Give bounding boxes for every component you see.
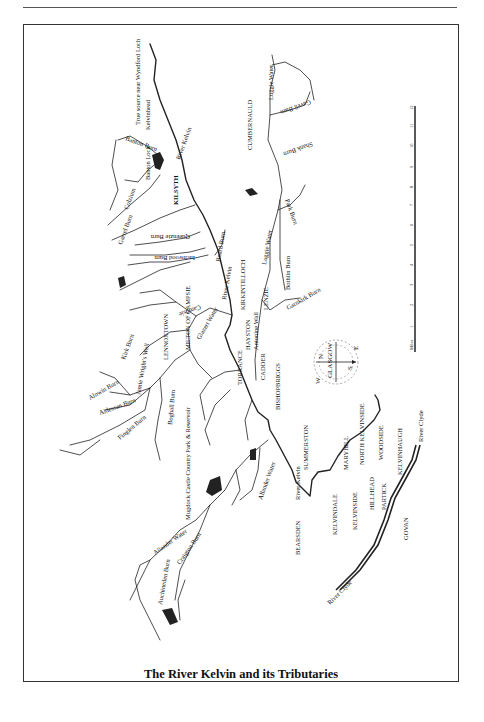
label-shank-burn: Shank Burn xyxy=(282,141,314,158)
label-colzium: Colzium xyxy=(122,187,136,210)
label-kelvindale: KELVINDALE xyxy=(331,494,338,535)
label-auchineden-burn: Auchineden Burn xyxy=(156,558,171,605)
label-park-burn: Park Burn xyxy=(284,198,300,226)
label-north-kelvinside: NORTH KELVINSIDE xyxy=(358,403,365,465)
label-inchwood-burn: Inchwood Burn xyxy=(154,255,195,262)
banton-loch xyxy=(152,152,164,170)
compass-center: GLASGOW xyxy=(326,343,334,378)
compass-rose: N E S W GLASGOW xyxy=(314,340,360,384)
label-woodside: WOODSIDE xyxy=(377,425,384,460)
label-lenzie: LENZIE xyxy=(262,287,269,310)
label-river-clyde-upper: River Clyde xyxy=(417,410,424,442)
label-kelvin-lower: River Kelvin xyxy=(294,465,301,500)
label-banton-burn: Banton Burn xyxy=(125,134,159,152)
scale-unit: Miles xyxy=(409,340,414,350)
label-gavell-burn: Gavell Burn xyxy=(279,99,312,117)
label-boghall-burn: Boghall Burn xyxy=(166,389,176,425)
craigmaddie-reservoir xyxy=(250,448,256,460)
compass-n: N xyxy=(317,354,325,359)
river-kelvin-map: True source near Wyndford Loch Kelvinhea… xyxy=(0,0,484,722)
label-river-clyde-lower: River Clyde xyxy=(326,578,353,605)
scale-tick: 2 xyxy=(409,304,414,306)
label-kilsyth: KILSYTH xyxy=(172,175,179,205)
label-cadder: CADDER xyxy=(259,353,266,380)
label-maryhill: MARYHILL xyxy=(342,436,349,470)
scale-tick: 8 xyxy=(409,185,414,188)
label-jamie-wrights-well: Jamie Wright's Well xyxy=(134,342,150,395)
label-kelvinside: KELVINSIDE xyxy=(351,492,358,530)
label-kelvinhaugh: KELVINHAUGH xyxy=(396,428,403,475)
label-partick: PARTICK xyxy=(380,483,387,510)
label-banton-loch: Banton Loch xyxy=(144,145,151,180)
auchineden-reservoir xyxy=(162,608,178,625)
label-bothlin-burn: Bothlin Burn xyxy=(284,255,291,290)
compass-e: E xyxy=(352,346,360,350)
scale-tick: 12 xyxy=(409,106,414,111)
label-finglen-burn: Finglen Burn xyxy=(116,413,147,441)
label-antonine-wall: Antonine Wall xyxy=(252,312,259,350)
label-hillhead: HILLHEAD xyxy=(368,477,375,510)
map-caption: The River Kelvin and its Tributaries xyxy=(23,667,459,682)
reservoir xyxy=(118,276,126,288)
label-hayston: HAYSTON xyxy=(244,319,251,350)
scale-tick: 11 xyxy=(409,124,414,128)
scale-tick: 9 xyxy=(409,165,414,168)
scale-tick: 7 xyxy=(409,203,414,206)
label-alnwin-burn: Alnwin Burn xyxy=(87,377,121,400)
label-kirk-burn: Kirk Burn xyxy=(119,332,135,360)
label-lennoxtown: LENNOXTOWN xyxy=(162,314,169,360)
label-queenzie-burn: Queenzie Burn xyxy=(150,234,190,241)
label-aldessan-burn: Aldessan Burn xyxy=(98,396,137,416)
label-board-burn: Board Burn xyxy=(214,230,226,262)
label-luggie-water: Luggie Water xyxy=(260,228,273,265)
scale-tick: 10 xyxy=(409,143,414,148)
label-summerston: SUMMERSTON xyxy=(302,425,309,470)
compass-w: W xyxy=(314,377,322,384)
scale-bar: Miles 1 2 3 4 5 6 7 8 9 10 11 12 xyxy=(409,106,415,353)
mugdock-reservoir xyxy=(206,476,222,496)
scale-tick: 3 xyxy=(409,283,414,286)
label-allander-water-upper: Allander Water xyxy=(256,460,276,500)
label-garrel-burn: Garrel Burn xyxy=(116,213,134,245)
label-kirkintilloch: KIRKINTILLOCH xyxy=(239,259,246,310)
label-source: True source near Wyndford Loch xyxy=(134,38,141,125)
scale-tick: 4 xyxy=(409,263,414,266)
label-cumbernauld: CUMBERNAULD xyxy=(246,99,253,150)
label-govan: GOVAN xyxy=(402,517,409,540)
label-luggie-upper: Luggie Water xyxy=(267,64,274,100)
label-torrance: TORRANCE xyxy=(236,350,243,385)
label-kelvin-mid: River Kelvin xyxy=(220,265,233,300)
scale-tick: 5 xyxy=(409,243,414,246)
label-bishopbriggs: BISHOPBRIGGS xyxy=(274,363,281,410)
label-mugdock: Mugdock Castle Country Park & Reservoir xyxy=(184,406,191,520)
label-kelvinhead: Kelvinhead xyxy=(144,99,151,130)
scale-tick: 6 xyxy=(409,223,414,226)
compass-s: S xyxy=(346,366,354,370)
cumbernauld-loch xyxy=(245,188,258,196)
label-bearsden: BEARSDEN xyxy=(294,520,301,555)
label-milton: MILTON OF CAMPSIE xyxy=(184,286,191,350)
scale-tick: 1 xyxy=(409,326,414,328)
